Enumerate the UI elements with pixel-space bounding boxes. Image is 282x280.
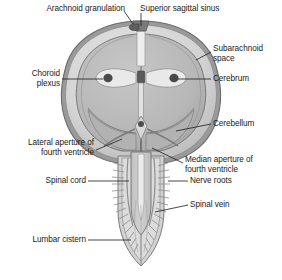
label-cerebrum: Cerebrum	[213, 74, 277, 84]
label-lumbar-cistern: Lumbar cistern	[10, 235, 86, 245]
arachnoid-granulation	[129, 24, 139, 31]
label-spinal-cord: Spinal cord	[20, 176, 86, 186]
label-nerve-roots: Nerve roots	[190, 176, 260, 186]
cerebral-aqueduct	[139, 83, 144, 118]
label-superior-sagittal-sinus: Superior sagittal sinus	[140, 4, 252, 14]
fourth-ventricle-choroid-plexus	[138, 121, 144, 127]
label-subarachnoid-space: Subarachnoid space	[213, 44, 281, 63]
lateral-ventricle-right	[146, 69, 186, 88]
label-arachnoid-granulation: Arachnoid granulation	[33, 4, 125, 14]
anatomy-diagram-figure: Arachnoid granulation Superior sagittal …	[0, 0, 282, 280]
spinal-canal-group	[112, 152, 170, 266]
label-lateral-aperture-of-fourth-ventricle: Lateral aperture of fourth ventricle	[6, 138, 94, 157]
choroid-plexus-left	[103, 74, 112, 83]
third-ventricle	[138, 71, 145, 83]
choroid-plexus-right	[169, 74, 178, 83]
label-cerebellum: Cerebellum	[213, 119, 279, 129]
label-choroid-plexus: Choroid plexus	[4, 69, 60, 88]
label-spinal-vein: Spinal vein	[190, 200, 260, 210]
lateral-ventricle-left	[96, 69, 136, 88]
label-median-aperture-of-fourth-ventricle: Median aperture of fourth ventricle	[185, 155, 281, 174]
interhemispheric-csf-column	[137, 31, 145, 66]
